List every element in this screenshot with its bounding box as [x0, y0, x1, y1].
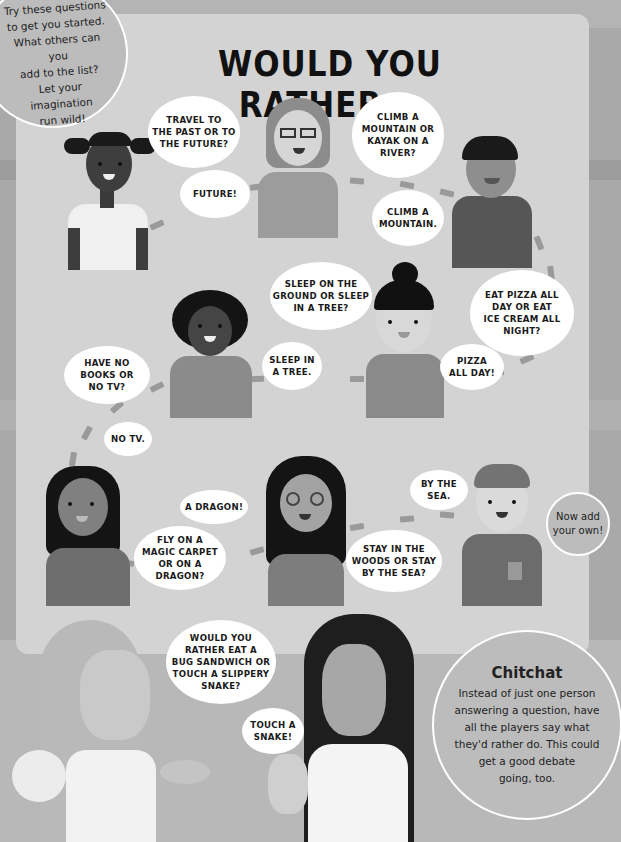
intro-note-line: Let your imagination [6, 76, 116, 115]
speech-bubble-answer: BY THESEA. [410, 470, 468, 510]
figure-woman-glasses [256, 98, 340, 238]
figure-girl-bun [366, 262, 444, 418]
chitchat-note: Chitchat Instead of just one person answ… [432, 630, 621, 820]
figure-girl-twists [66, 128, 152, 270]
speech-bubble-answer: CLIMB AMOUNTAIN. [372, 190, 444, 246]
figure-girl-long-hair [46, 466, 130, 606]
add-your-own-note: Now add your own! [546, 492, 610, 556]
figure-boy-tshirt [462, 462, 542, 606]
speech-bubble-answer: SLEEP INA TREE. [262, 342, 322, 390]
speech-bubble-answer: TOUCH ASNAKE! [242, 708, 304, 754]
path-dash [250, 376, 264, 383]
sandwich [268, 754, 308, 814]
speech-bubble-answer: A DRAGON! [180, 490, 248, 524]
intro-note-line: run wild! [39, 110, 86, 129]
path-dash [350, 376, 364, 382]
speech-bubble-answer: NO TV. [104, 422, 152, 456]
figure-boy-sweater [450, 136, 534, 268]
speech-bubble-question: CLIMB AMOUNTAIN ORKAYAK ON ARIVER? [352, 92, 444, 178]
figure-girl-round-glasses [264, 456, 348, 606]
speech-bubble-question: SLEEP ON THEGROUND OR SLEEPIN A TREE? [270, 262, 372, 330]
path-dash [350, 177, 364, 184]
figure-girl-curly [170, 290, 252, 418]
apple [12, 750, 66, 802]
chitchat-title: Chitchat [492, 663, 563, 683]
speech-bubble-question: EAT PIZZA ALLDAY OR EATICE CREAM ALLNIGH… [470, 270, 574, 356]
speech-bubble-answer: PIZZAALL DAY! [440, 344, 504, 390]
speech-bubble-answer: FUTURE! [180, 170, 250, 218]
speech-bubble-question: FLY ON AMAGIC CARPETOR ON ADRAGON? [134, 526, 226, 590]
path-dash [440, 512, 454, 519]
speech-bubble-question: HAVE NOBOOKS ORNO TV? [64, 346, 150, 404]
speech-bubble-question: WOULD YOURATHER EAT ABUG SANDWICH ORTOUC… [166, 620, 276, 704]
speech-bubble-question: STAY IN THEWOODS OR STAYBY THE SEA? [346, 530, 442, 592]
speech-bubble-question: TRAVEL TOTHE PAST OR TOTHE FUTURE? [148, 96, 240, 168]
